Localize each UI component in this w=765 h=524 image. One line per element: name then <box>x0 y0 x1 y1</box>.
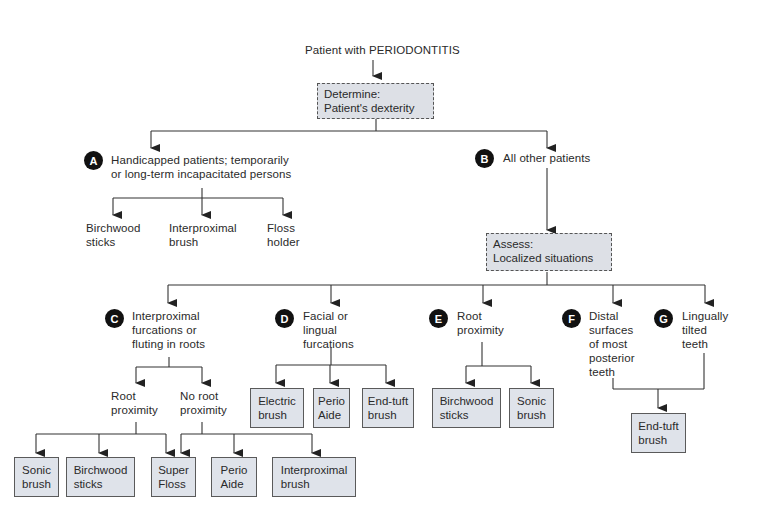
node-B-label: All other patients <box>503 151 590 165</box>
c-option-interproximal-brush: Interproximal brush <box>272 457 356 497</box>
c-option-super-floss: Super Floss <box>151 457 196 497</box>
node-G-label: Lingually tilted teeth <box>682 309 728 351</box>
fg-option-end-tuft-brush: End-tuft brush <box>631 413 686 453</box>
e-option-sonic-brush: Sonic brush <box>509 388 554 428</box>
root-label: Patient with PERIODONTITIS <box>305 43 460 57</box>
d-option-end-tuft-brush: End-tuft brush <box>362 388 414 428</box>
d-option-electric-brush: Electric brush <box>250 388 304 428</box>
c-sub-no-root-proximity: No root proximity <box>180 389 227 417</box>
node-C-label: Interproximal furcations or fluting in r… <box>132 309 205 351</box>
badge-A: A <box>84 151 103 170</box>
c-option-birchwood-sticks: Birchwood sticks <box>66 457 135 497</box>
a-option-floss-holder: Floss holder <box>267 221 300 249</box>
determine-box: Determine: Patient's dexterity <box>317 83 434 119</box>
a-option-birchwood: Birchwood sticks <box>86 221 141 249</box>
badge-F: F <box>562 309 581 328</box>
c-option-sonic-brush: Sonic brush <box>14 457 59 497</box>
badge-C: C <box>105 309 124 328</box>
badge-B: B <box>475 149 494 168</box>
badge-G: G <box>654 309 673 328</box>
badge-D: D <box>275 309 294 328</box>
a-option-interproximal: Interproximal brush <box>169 221 237 249</box>
node-D-label: Facial or lingual furcations <box>303 309 354 351</box>
d-option-perio-aide: Perio Aide <box>313 388 350 428</box>
node-F-label: Distal surfaces of most posterior teeth <box>589 309 635 379</box>
node-E-label: Root proximity <box>457 309 504 337</box>
badge-E: E <box>429 309 448 328</box>
assess-box: Assess: Localized situations <box>486 233 612 271</box>
e-option-birchwood-sticks: Birchwood sticks <box>432 388 501 428</box>
c-option-perio-aide: Perio Aide <box>211 457 257 497</box>
node-A-label: Handicapped patients; temporarily or lon… <box>111 153 291 181</box>
c-sub-root-proximity: Root proximity <box>111 389 158 417</box>
